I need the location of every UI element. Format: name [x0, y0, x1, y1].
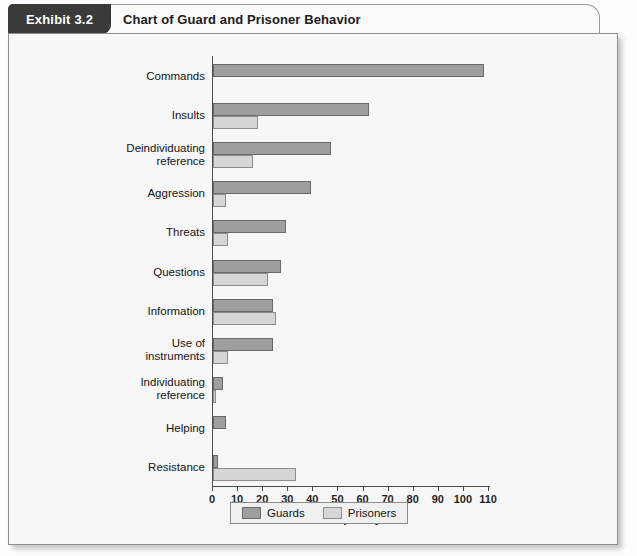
category-label: Deindividuating reference	[15, 142, 205, 168]
x-axis-tick	[237, 486, 238, 491]
legend-item-guards: Guards	[242, 507, 305, 519]
category-label: Questions	[15, 266, 205, 279]
x-axis-tick	[287, 486, 288, 491]
bar-guards	[213, 103, 369, 116]
x-axis-tick	[337, 486, 338, 491]
category-label: Helping	[15, 422, 205, 435]
x-axis-tick	[262, 486, 263, 491]
x-axis-tick	[463, 486, 464, 491]
bar-prisoners	[213, 116, 258, 129]
bar-group: Threats	[212, 220, 489, 247]
bar-group: Commands	[212, 64, 489, 91]
exhibit-badge: Exhibit 3.2	[8, 4, 111, 34]
bar-guards	[213, 377, 223, 390]
bar-prisoners	[213, 273, 268, 286]
bar-guards	[213, 299, 273, 312]
bar-group: Helping	[212, 416, 489, 443]
bar-guards	[213, 416, 226, 429]
x-axis-tick	[488, 486, 489, 491]
bar-group: Information	[212, 299, 489, 326]
bar-prisoners	[213, 233, 228, 246]
exhibit-title: Chart of Guard and Prisoner Behavior	[123, 4, 361, 34]
bar-prisoners	[213, 194, 226, 207]
x-axis-tick	[438, 486, 439, 491]
exhibit-page: Exhibit 3.2 Chart of Guard and Prisoner …	[0, 0, 637, 556]
bar-guards	[213, 455, 218, 468]
category-label: Threats	[15, 226, 205, 239]
bar-guards	[213, 260, 281, 273]
category-label: Resistance	[15, 461, 205, 474]
bar-guards	[213, 338, 273, 351]
legend-swatch-guards-icon	[242, 507, 261, 519]
bar-group: Individuating reference	[212, 377, 489, 404]
bar-group: Insults	[212, 103, 489, 130]
legend-label-guards: Guards	[267, 507, 305, 519]
category-label: Individuating reference	[15, 376, 205, 402]
bar-guards	[213, 220, 286, 233]
exhibit-tab-strip: Exhibit 3.2 Chart of Guard and Prisoner …	[8, 4, 600, 34]
category-label: Commands	[15, 70, 205, 83]
x-axis-tick	[413, 486, 414, 491]
x-axis-tick	[388, 486, 389, 491]
bar-group: Questions	[212, 260, 489, 287]
category-label: Insults	[15, 109, 205, 122]
category-label: Aggression	[15, 187, 205, 200]
plot-area: Frequency 0102030405060708090100110Comma…	[212, 56, 489, 486]
legend-item-prisoners: Prisoners	[323, 507, 397, 519]
chart-legend: Guards Prisoners	[230, 502, 408, 524]
legend-label-prisoners: Prisoners	[348, 507, 397, 519]
bar-group: Resistance	[212, 455, 489, 482]
bar-guards	[213, 64, 484, 77]
category-label: Information	[15, 305, 205, 318]
bar-group: Aggression	[212, 181, 489, 208]
exhibit-panel: Frequency 0102030405060708090100110Comma…	[8, 33, 618, 545]
x-axis-tick	[363, 486, 364, 491]
legend-swatch-prisoners-icon	[323, 507, 342, 519]
bar-prisoners	[213, 468, 296, 481]
bar-prisoners	[213, 390, 216, 403]
bar-guards	[213, 142, 331, 155]
category-label: Use of instruments	[15, 337, 205, 363]
x-axis-line	[212, 486, 490, 487]
bar-guards	[213, 181, 311, 194]
bar-chart: Frequency 0102030405060708090100110Comma…	[9, 34, 619, 546]
x-axis-tick-label: 110	[473, 493, 503, 505]
x-axis-tick	[312, 486, 313, 491]
x-axis-tick	[212, 486, 213, 491]
bar-group: Use of instruments	[212, 338, 489, 365]
bar-prisoners	[213, 155, 253, 168]
bar-prisoners	[213, 312, 276, 325]
bar-prisoners	[213, 351, 228, 364]
bar-group: Deindividuating reference	[212, 142, 489, 169]
